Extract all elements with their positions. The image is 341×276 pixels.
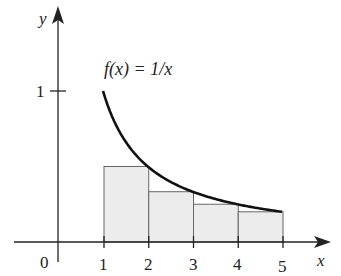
y-tick-label-1: 1: [36, 83, 45, 100]
rectangles: [104, 167, 283, 243]
rect-4: [238, 212, 283, 242]
rect-2: [149, 192, 194, 242]
plot-canvas: [0, 0, 341, 276]
x-tick-label-1: 1: [99, 256, 108, 273]
x-tick-label-2: 2: [144, 256, 153, 273]
rect-3: [194, 204, 239, 242]
y-axis-label: y: [39, 10, 47, 27]
x-tick-label-3: 3: [189, 256, 198, 273]
function-label: f(x) = 1/x: [104, 60, 172, 78]
x-tick-label-5: 5: [278, 258, 287, 275]
rect-1: [104, 167, 149, 243]
riemann-sum-diagram: y x 1 0 1 2 3 4 5 f(x) = 1/x: [0, 0, 341, 276]
x-tick-label-4: 4: [233, 256, 242, 273]
origin-label: 0: [40, 254, 49, 271]
x-axis-label: x: [317, 252, 325, 269]
